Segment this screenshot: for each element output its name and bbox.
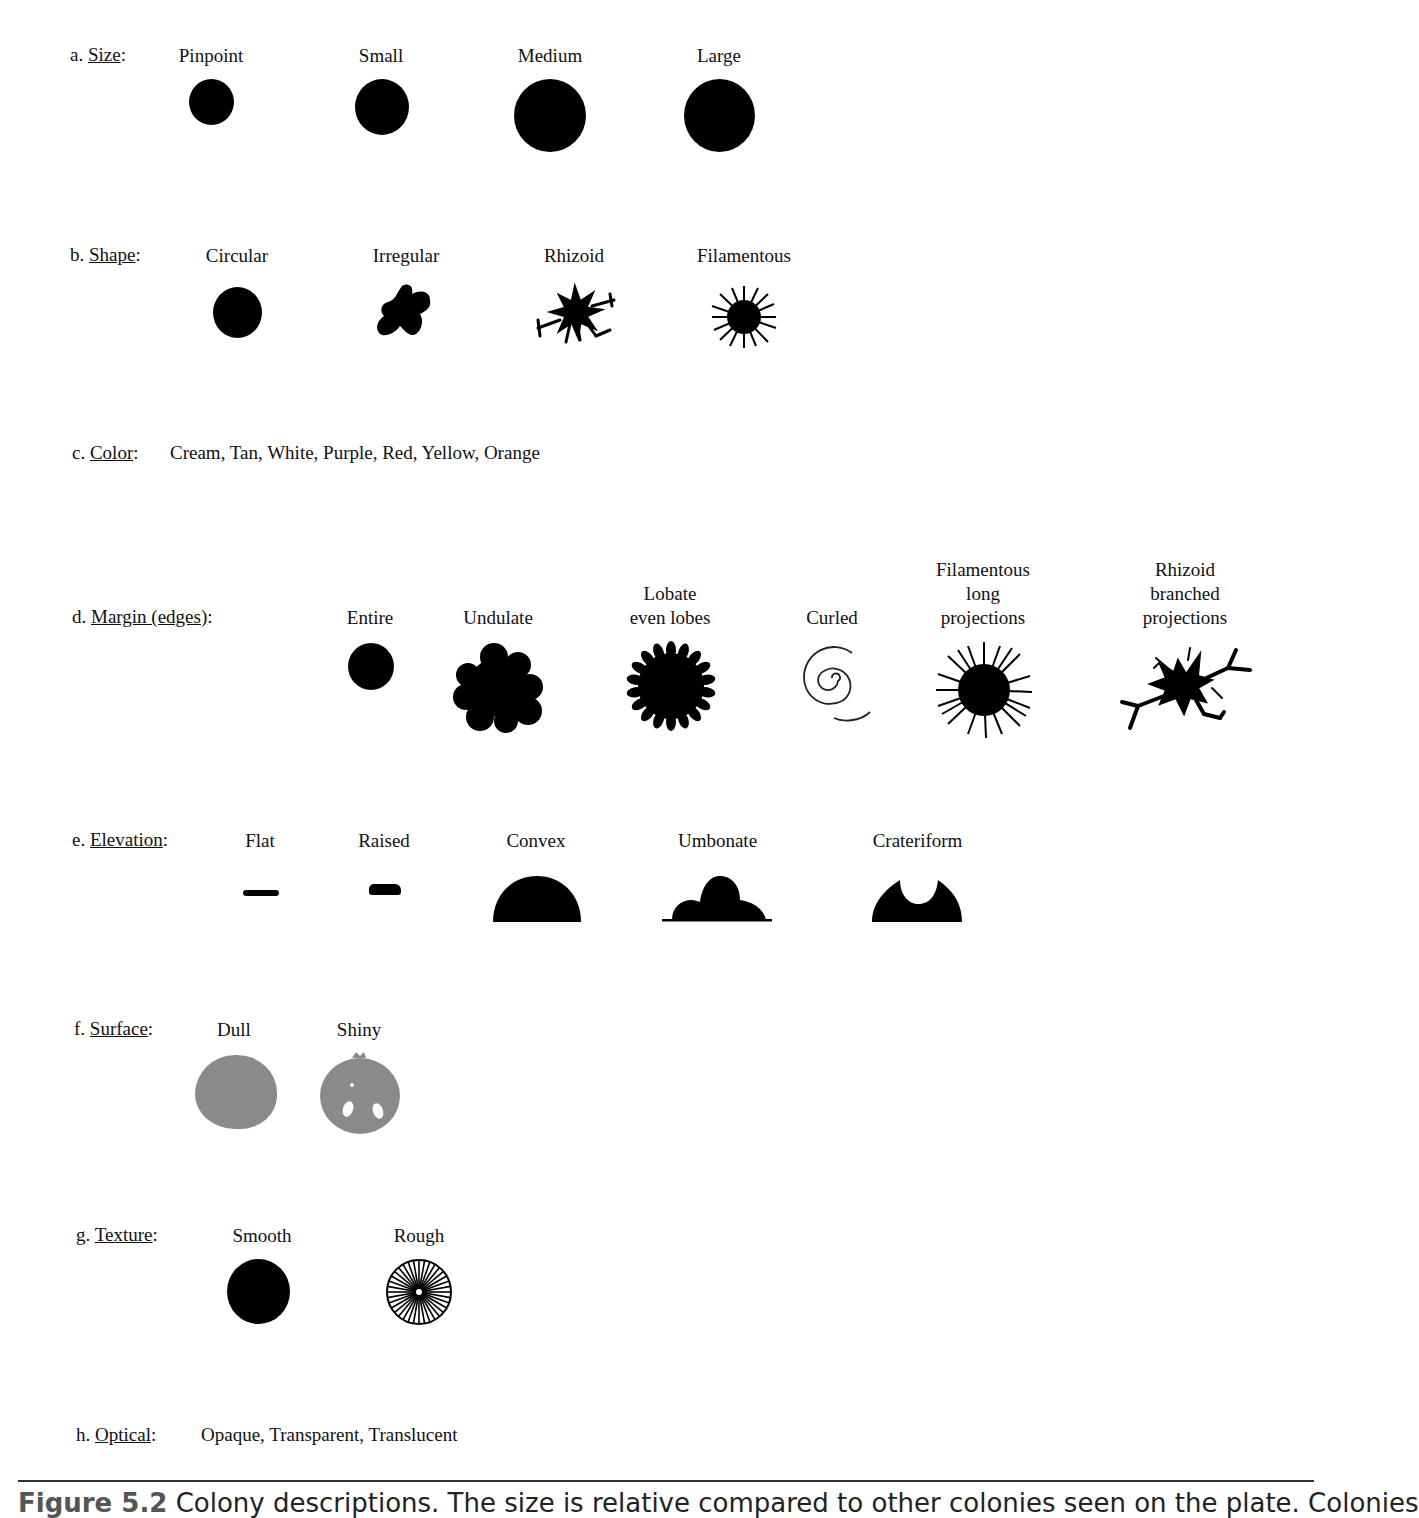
row-title: Elevation: [90, 829, 163, 850]
margin-lobate-label: Lobate even lobes: [610, 582, 730, 630]
rough-texture-icon: [385, 1258, 453, 1326]
row-prefix: d.: [72, 606, 86, 627]
row-title: Shape: [89, 244, 135, 265]
row-suffix: :: [163, 829, 168, 850]
row-suffix: :: [133, 442, 138, 463]
row-prefix: e.: [72, 829, 85, 850]
row-suffix: :: [207, 606, 212, 627]
row-label-shape: b. Shape:: [70, 244, 141, 266]
caption-divider: [18, 1480, 1314, 1482]
margin-curled-label: Curled: [782, 606, 882, 630]
convex-elevation-icon: [491, 874, 583, 924]
shiny-surface-icon: [318, 1050, 402, 1138]
row-title: Optical: [95, 1424, 151, 1445]
row-label-surface: f. Surface:: [74, 1018, 153, 1040]
pinpoint-colony-icon: [189, 79, 234, 125]
crateriform-elevation-icon: [870, 872, 964, 924]
rhizoid-margin-icon: [1116, 640, 1256, 740]
row-suffix: :: [121, 44, 126, 65]
row-label-optical: h. Optical:: [76, 1424, 156, 1446]
margin-undulate-label: Undulate: [448, 606, 548, 630]
umbonate-elevation-icon: [660, 872, 774, 924]
row-prefix: f.: [74, 1018, 85, 1039]
label-line: projections: [1120, 606, 1250, 630]
elevation-umbonate-label: Umbonate: [660, 829, 775, 853]
margin-rhizoid-label: Rhizoid branched projections: [1120, 558, 1250, 630]
row-title: Color: [90, 442, 133, 463]
irregular-shape-icon: [372, 282, 440, 342]
row-prefix: h.: [76, 1424, 90, 1445]
color-values: Cream, Tan, White, Purple, Red, Yellow, …: [170, 442, 540, 464]
shape-circular-label: Circular: [187, 244, 287, 268]
filamentous-margin-icon: [934, 642, 1034, 738]
margin-filamentous-label: Filamentous long projections: [918, 558, 1048, 630]
row-label-size: a. Size:: [70, 44, 126, 66]
lobate-margin-icon: [626, 640, 716, 732]
optical-values: Opaque, Transparent, Translucent: [201, 1424, 457, 1446]
dull-surface-icon: [195, 1055, 277, 1129]
filamentous-shape-icon: [710, 286, 778, 350]
label-line: projections: [918, 606, 1048, 630]
row-title: Size: [88, 44, 121, 65]
elevation-raised-label: Raised: [334, 829, 434, 853]
row-prefix: a.: [70, 44, 83, 65]
label-line: even lobes: [610, 606, 730, 630]
row-prefix: b.: [70, 244, 84, 265]
size-medium-label: Medium: [500, 44, 600, 68]
row-suffix: :: [151, 1424, 156, 1445]
small-colony-icon: [355, 79, 409, 135]
row-label-elevation: e. Elevation:: [72, 829, 168, 851]
label-line: Lobate: [610, 582, 730, 606]
shape-rhizoid-label: Rhizoid: [524, 244, 624, 268]
caption-text: Colony descriptions. The size is relativ…: [167, 1488, 1418, 1518]
undulate-margin-icon: [452, 641, 546, 733]
row-title: Margin (edges): [91, 606, 207, 627]
circular-shape-icon: [213, 287, 262, 338]
row-suffix: :: [152, 1224, 157, 1245]
shape-irregular-label: Irregular: [356, 244, 456, 268]
row-label-texture: g. Texture:: [76, 1224, 158, 1246]
row-label-margin: d. Margin (edges):: [72, 606, 213, 628]
surface-shiny-label: Shiny: [309, 1018, 409, 1042]
figure-caption: Figure 5.2 Colony descriptions. The size…: [18, 1488, 1419, 1518]
surface-dull-label: Dull: [184, 1018, 284, 1042]
rhizoid-shape-icon: [530, 284, 620, 346]
label-line: Rhizoid: [1120, 558, 1250, 582]
shape-filamentous-label: Filamentous: [684, 244, 804, 268]
label-line: branched: [1120, 582, 1250, 606]
margin-entire-label: Entire: [320, 606, 420, 630]
flat-elevation-icon: [243, 890, 279, 896]
row-prefix: g.: [76, 1224, 90, 1245]
row-title: Texture: [95, 1224, 153, 1245]
size-pinpoint-label: Pinpoint: [161, 44, 261, 68]
row-label-color: c. Color:: [72, 442, 139, 464]
size-small-label: Small: [331, 44, 431, 68]
size-large-label: Large: [669, 44, 769, 68]
row-prefix: c.: [72, 442, 85, 463]
curled-margin-icon: [794, 640, 874, 722]
row-title: Surface: [90, 1018, 148, 1039]
elevation-crateriform-label: Crateriform: [860, 829, 975, 853]
label-line: Filamentous: [918, 558, 1048, 582]
row-suffix: :: [148, 1018, 153, 1039]
elevation-flat-label: Flat: [210, 829, 310, 853]
label-line: long: [918, 582, 1048, 606]
texture-rough-label: Rough: [369, 1224, 469, 1248]
raised-elevation-icon: [369, 884, 401, 895]
texture-smooth-label: Smooth: [212, 1224, 312, 1248]
row-suffix: :: [135, 244, 140, 265]
entire-margin-icon: [348, 643, 394, 690]
elevation-convex-label: Convex: [486, 829, 586, 853]
medium-colony-icon: [514, 79, 586, 152]
smooth-texture-icon: [227, 1259, 290, 1324]
figure-number: Figure 5.2: [18, 1488, 167, 1518]
large-colony-icon: [684, 79, 755, 152]
